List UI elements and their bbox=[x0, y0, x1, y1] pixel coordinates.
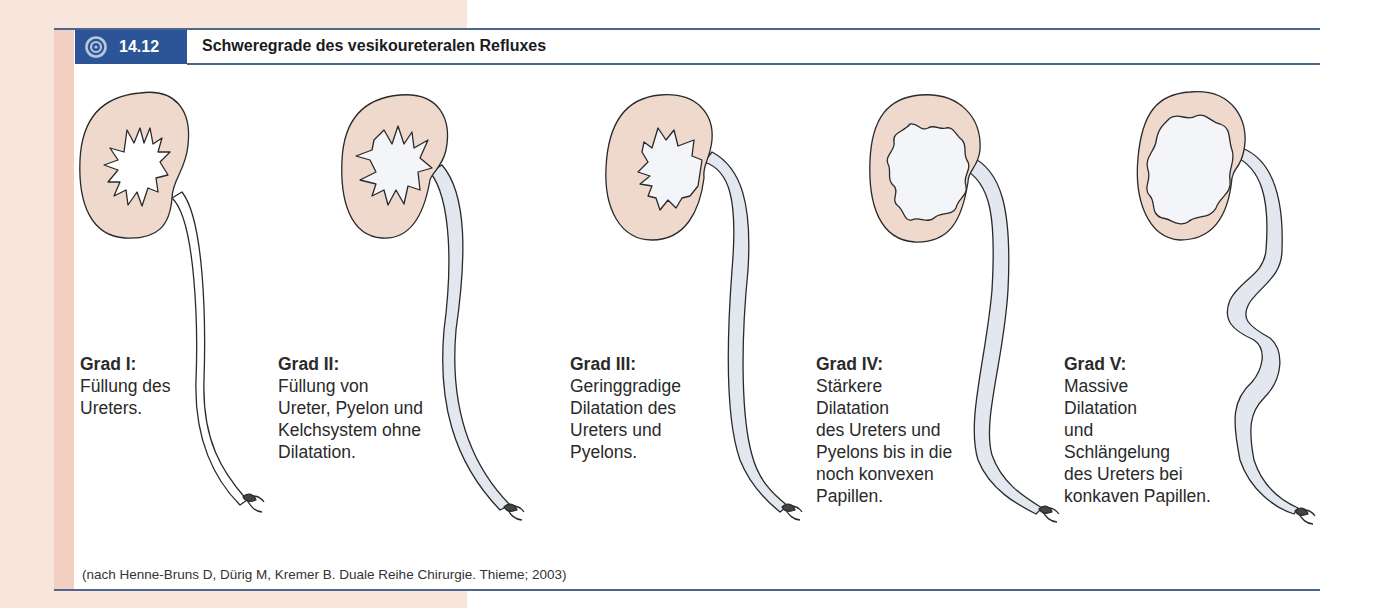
figure-source-citation: (nach Henne-Bruns D, Dürig M, Kremer B. … bbox=[82, 567, 566, 582]
grade-4-label: Grad IV: bbox=[816, 353, 952, 375]
grade-2-label: Grad II: bbox=[278, 353, 423, 375]
grade-2-caption: Grad II: Füllung von Ureter, Pyelon und … bbox=[278, 353, 423, 463]
grade-4-caption: Grad IV: Stärkere Dilatation des Ureters… bbox=[816, 353, 952, 507]
grade-2-description: Füllung von Ureter, Pyelon und Kelchsyst… bbox=[278, 375, 423, 463]
grade-3-description: Geringgradige Dilatation des Ureters und… bbox=[570, 375, 681, 463]
grade-3-caption: Grad III: Geringgradige Dilatation des U… bbox=[570, 353, 681, 463]
grade-5-caption: Grad V: Massive Dilatation und Schlängel… bbox=[1064, 353, 1211, 507]
grade-1-caption: Grad I: Füllung des Ureters. bbox=[80, 353, 170, 419]
grade-5-description: Massive Dilatation und Schlängelung des … bbox=[1064, 375, 1211, 507]
grade-5-label: Grad V: bbox=[1064, 353, 1211, 375]
grade-1-description: Füllung des Ureters. bbox=[80, 375, 170, 419]
grade-3-label: Grad III: bbox=[570, 353, 681, 375]
reflux-grades-illustration bbox=[0, 0, 1376, 608]
kidney-grade-1 bbox=[80, 92, 264, 512]
grade-1-label: Grad I: bbox=[80, 353, 170, 375]
grade-4-description: Stärkere Dilatation des Ureters und Pyel… bbox=[816, 375, 952, 507]
